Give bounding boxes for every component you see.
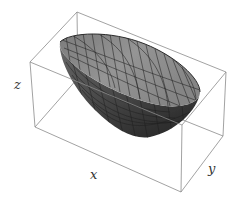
x-axis-label: x — [90, 168, 97, 181]
z-axis-label: z — [14, 78, 21, 91]
y-axis-label: y — [208, 162, 215, 175]
surface-plot — [0, 0, 235, 200]
surface-inner — [60, 32, 200, 106]
